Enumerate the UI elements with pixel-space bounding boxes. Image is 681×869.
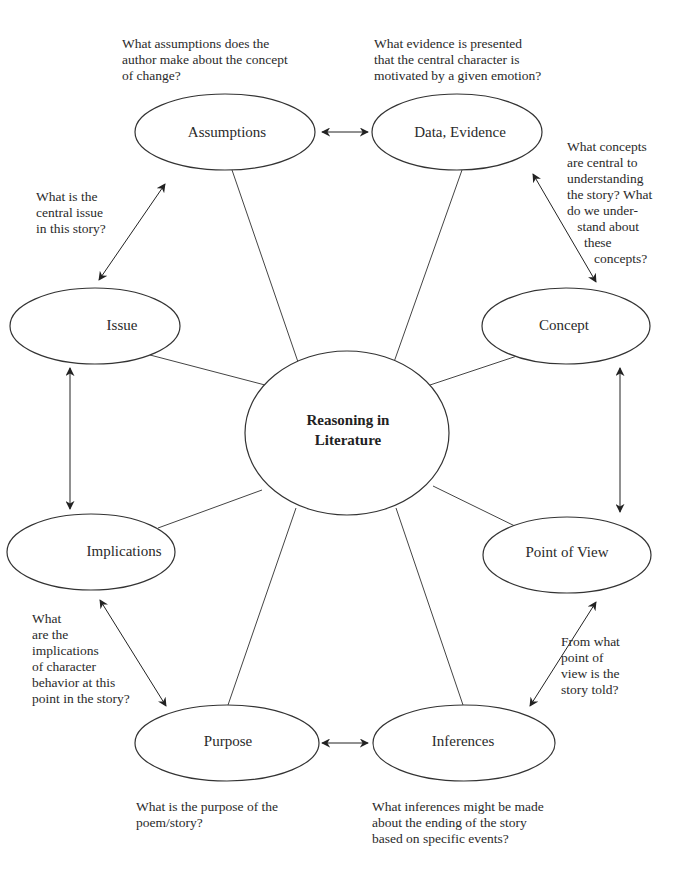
question-inferences: What inferences might be made about the … [372, 799, 544, 847]
question-issue: What is the central issue in this story? [36, 189, 106, 237]
label-data-evidence: Data, Evidence [414, 124, 506, 140]
label-issue: Issue [107, 317, 138, 333]
question-concept: What concepts are central to understandi… [567, 139, 652, 267]
label-point-of-view: Point of View [526, 544, 609, 560]
label-concept: Concept [539, 317, 590, 333]
question-data-evidence: What evidence is presented that the cent… [374, 36, 541, 84]
center-label-line2: Literature [315, 432, 382, 448]
label-purpose: Purpose [204, 733, 253, 749]
question-assumptions: What assumptions does the author make ab… [122, 36, 288, 84]
center-label-line1: Reasoning in [307, 412, 391, 428]
reasoning-diagram: Assumptions Data, Evidence Issue Concept… [0, 0, 681, 869]
question-point-of-view: From what point of view is the story tol… [561, 634, 620, 698]
label-assumptions: Assumptions [188, 124, 267, 140]
label-implications: Implications [87, 543, 162, 559]
node-issue [10, 288, 180, 364]
question-implications: What are the implications of character b… [32, 611, 130, 707]
question-purpose: What is the purpose of the poem/story? [136, 799, 278, 831]
label-inferences: Inferences [432, 733, 495, 749]
